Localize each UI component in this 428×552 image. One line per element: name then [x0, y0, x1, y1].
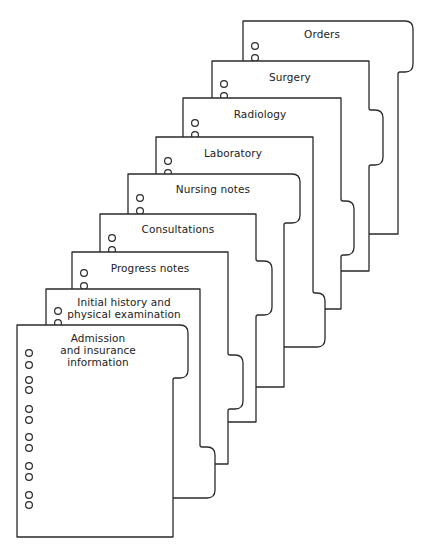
binder-hole-icon — [221, 81, 228, 88]
binder-hole-icon — [26, 406, 33, 413]
binder-hole-icon — [137, 195, 144, 202]
binder-hole-icon — [26, 492, 33, 499]
binder-hole-icon — [26, 417, 33, 424]
binder-hole-icon — [26, 350, 33, 357]
binder-hole-icon — [252, 43, 259, 50]
binder-hole-icon — [26, 445, 33, 452]
binder-hole-icon — [26, 387, 33, 394]
binder-hole-icon — [165, 158, 172, 165]
binder-hole-icon — [26, 502, 33, 509]
binder-hole-icon — [26, 362, 33, 369]
divider-stack-graphic — [0, 0, 428, 552]
binder-hole-icon — [55, 308, 62, 315]
binder-hole-icon — [26, 377, 33, 384]
chart-divider-diagram: OrdersSurgeryRadiologyLaboratoryNursing … — [0, 0, 428, 552]
binder-hole-icon — [81, 270, 88, 277]
binder-hole-icon — [26, 474, 33, 481]
binder-hole-icon — [192, 120, 199, 127]
binder-hole-icon — [26, 463, 33, 470]
divider-page-outline — [17, 325, 188, 537]
divider-page-admission — [17, 325, 188, 537]
binder-hole-icon — [26, 434, 33, 441]
binder-hole-icon — [109, 235, 116, 242]
